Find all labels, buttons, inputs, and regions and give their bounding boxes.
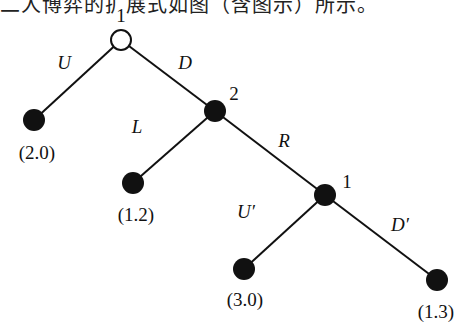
player-label-root: 1 [116, 6, 126, 25]
edge-R [215, 111, 325, 195]
edge-label-U: U [57, 53, 71, 72]
edge-U [34, 40, 121, 120]
edge-L [133, 111, 215, 183]
edges [34, 40, 437, 280]
payoff-label-2: (1.2) [118, 205, 154, 224]
game-tree [0, 0, 475, 333]
edge-label-D: D [178, 53, 192, 72]
player-label-n3: 1 [342, 172, 352, 191]
payoff-label-3: (3.0) [227, 290, 263, 309]
terminal-node-3 [233, 258, 255, 280]
root-node-open [111, 30, 131, 50]
terminal-node-1 [23, 109, 45, 131]
terminal-node-4 [426, 269, 448, 291]
payoff-label-1: (2.0) [19, 143, 55, 162]
edge-label-L: L [132, 117, 143, 136]
node-player1-second [314, 184, 336, 206]
edge-U-prime [244, 195, 325, 269]
payoff-label-4: (1.3) [418, 302, 454, 321]
edge-label-U-prime: U′ [237, 202, 255, 221]
edge-D [121, 40, 215, 111]
player-label-n2: 2 [229, 84, 239, 103]
edge-label-D-prime: D′ [391, 215, 409, 234]
edge-D-prime [325, 195, 437, 280]
terminal-node-2 [122, 172, 144, 194]
node-player2 [204, 100, 226, 122]
edge-label-R: R [278, 131, 290, 150]
